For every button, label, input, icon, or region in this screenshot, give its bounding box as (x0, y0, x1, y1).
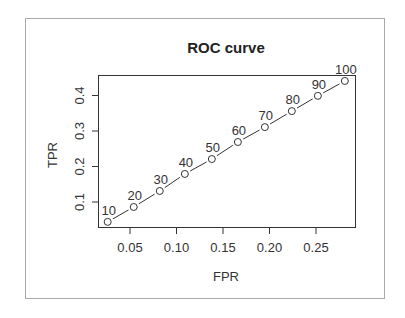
roc-chart: ROC curve FPR TPR 0.050.100.150.200.25 0… (0, 0, 405, 318)
data-point-marker (130, 203, 137, 210)
x-tick-label: 0.20 (257, 240, 282, 255)
point-label: 60 (232, 123, 246, 138)
data-point-marker (341, 77, 348, 84)
y-tick-label: 0.3 (72, 122, 87, 140)
point-label: 90 (312, 77, 326, 92)
data-point-marker (181, 170, 188, 177)
y-tick-label: 0.4 (72, 86, 87, 104)
y-axis-title: TPR (45, 142, 60, 168)
x-tick-label: 0.15 (210, 240, 235, 255)
x-tick-label: 0.05 (117, 240, 142, 255)
point-label: 50 (206, 140, 220, 155)
x-axis-title: FPR (213, 269, 239, 284)
data-point-marker (208, 156, 215, 163)
data-point-marker (314, 92, 321, 99)
point-label: 20 (127, 188, 141, 203)
point-label: 10 (101, 203, 115, 218)
point-label: 100 (335, 62, 357, 77)
point-label: 80 (286, 92, 300, 107)
x-tick-label: 0.10 (164, 240, 189, 255)
point-label: 30 (154, 172, 168, 187)
point-label: 40 (179, 155, 193, 170)
y-tick-label: 0.2 (72, 157, 87, 175)
data-point-marker (104, 218, 111, 225)
y-tick-label: 0.1 (72, 193, 87, 211)
data-point-marker (288, 108, 295, 115)
chart-title: ROC curve (187, 39, 265, 56)
point-label: 70 (259, 108, 273, 123)
data-point-marker (261, 124, 268, 131)
data-point-marker (234, 139, 241, 146)
data-point-marker (156, 187, 163, 194)
x-tick-label: 0.25 (303, 240, 328, 255)
